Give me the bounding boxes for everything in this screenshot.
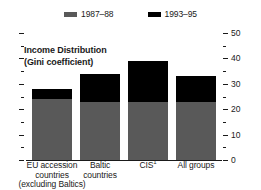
legend-label-1987-88: 1987–88	[81, 10, 113, 19]
bar-segment-1987-88	[32, 99, 72, 160]
chart-legend: 1987–88 1993–95	[0, 6, 261, 22]
x-label-line: (excluding Baltics)	[2, 180, 102, 190]
bar-segment-1993-95	[80, 74, 120, 102]
footnote-marker: 1	[153, 159, 156, 165]
x-label-line: countries	[70, 171, 130, 181]
x-label-line: All groups	[166, 161, 226, 171]
bar-segment-1993-95	[32, 89, 72, 99]
y-axis-label-50: 50	[231, 29, 240, 38]
y-axis-labels: 50 40 30 20 10 0	[231, 33, 259, 160]
y-axis-label-30: 30	[231, 80, 240, 89]
bar-eu-accession	[32, 89, 72, 160]
bar-all-groups	[176, 76, 216, 160]
income-distribution-chart: 1987–88 1993–95 50 40	[0, 0, 261, 190]
y-axis-label-20: 20	[231, 105, 240, 114]
legend-item-1993-95: 1993–95	[148, 10, 197, 19]
bars-container	[26, 33, 222, 160]
y-axis-label-40: 40	[231, 54, 240, 63]
x-axis-label-all-groups: All groups	[166, 161, 226, 171]
y-axis-label-10: 10	[231, 130, 240, 139]
bar-segment-1987-88	[80, 102, 120, 160]
legend-item-1987-88: 1987–88	[64, 10, 113, 19]
legend-swatch-1987-88	[64, 12, 77, 17]
bar-cis	[128, 61, 168, 160]
legend-swatch-1993-95	[148, 12, 161, 17]
bar-segment-1987-88	[176, 102, 216, 160]
plot-area	[26, 33, 222, 160]
bar-baltic	[80, 74, 120, 160]
bar-segment-1993-95	[128, 61, 168, 102]
x-axis-labels: EU accession countries (excluding Baltic…	[26, 161, 222, 190]
x-label-text: CIS	[139, 160, 153, 170]
y-axis-label-0: 0	[231, 156, 236, 165]
y-axis-left-ticks	[14, 33, 24, 160]
bar-segment-1987-88	[128, 102, 168, 160]
bar-segment-1993-95	[176, 76, 216, 101]
legend-label-1993-95: 1993–95	[165, 10, 197, 19]
